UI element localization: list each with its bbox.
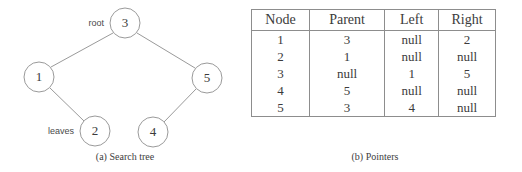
table-row: 5 3 4 null [252,99,496,117]
column-header-node: Node [252,10,310,31]
subfigure-a-caption: (a) Search tree [0,151,250,162]
tree-edge-3-1 [51,33,113,67]
cell-right: null [439,82,496,99]
column-header-parent: Parent [309,10,384,31]
pointers-table-head: Node Parent Left Right [252,10,496,31]
cell-right: 5 [439,65,496,82]
table-row: 1 3 null 2 [252,31,496,49]
cell-node: 5 [252,99,310,117]
tree-node-2-label: 2 [92,123,99,138]
tree-node-4-label: 4 [150,124,157,139]
column-header-right: Right [439,10,496,31]
tree-node-2[interactable]: 2 [80,116,110,146]
table-row: 4 5 null null [252,82,496,99]
subfigure-b-caption: (b) Pointers [250,151,500,162]
tree-edge-1-2 [50,88,84,121]
tree-node-1[interactable]: 1 [24,62,54,92]
cell-left: null [385,82,439,99]
table-row: 3 null 1 5 [252,65,496,82]
cell-parent: 1 [309,48,384,65]
tree-edge-5-4 [164,89,196,122]
tree-node-4[interactable]: 4 [138,117,168,147]
cell-node: 4 [252,82,310,99]
tree-node-3-label: 3 [122,15,129,30]
tree-node-3[interactable]: 3 [110,8,140,38]
figure-container: root leaves 3 1 5 2 4 [0,0,522,172]
pointers-table-body: 1 3 null 2 2 1 null null 3 null 1 5 [252,31,496,117]
cell-parent: 3 [309,99,384,117]
cell-left: null [385,48,439,65]
leaves-annotation-label: leaves [48,126,75,136]
tree-node-5[interactable]: 5 [192,63,222,93]
pointers-table: Node Parent Left Right 1 3 null 2 2 1 nu… [251,9,496,117]
column-header-left: Left [385,10,439,31]
cell-parent: 3 [309,31,384,49]
tree-node-5-label: 5 [204,70,211,85]
cell-node: 1 [252,31,310,49]
tree-edge-3-5 [137,33,195,68]
root-annotation-label: root [88,18,104,28]
tree-edges [50,33,196,122]
cell-parent: null [309,65,384,82]
cell-right: null [439,99,496,117]
cell-parent: 5 [309,82,384,99]
cell-right: null [439,48,496,65]
cell-left: 1 [385,65,439,82]
table-header-row: Node Parent Left Right [252,10,496,31]
cell-node: 2 [252,48,310,65]
pointers-panel: Node Parent Left Right 1 3 null 2 2 1 nu… [250,0,522,172]
cell-left: null [385,31,439,49]
cell-node: 3 [252,65,310,82]
table-row: 2 1 null null [252,48,496,65]
search-tree-diagram: root leaves 3 1 5 2 4 [0,0,250,150]
cell-right: 2 [439,31,496,49]
search-tree-panel: root leaves 3 1 5 2 4 [0,0,250,172]
cell-left: 4 [385,99,439,117]
tree-node-1-label: 1 [36,69,43,84]
